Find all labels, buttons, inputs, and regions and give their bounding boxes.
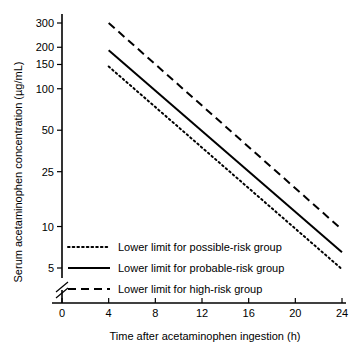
legend-label: Lower limit for possible-risk group	[118, 241, 282, 253]
series-line-dashed	[109, 23, 342, 230]
y-tick-label: 300	[36, 17, 54, 29]
y-tick-label: 50	[42, 124, 54, 136]
x-tick-label: 20	[289, 307, 301, 319]
legend-label: Lower limit for high-risk group	[118, 283, 262, 295]
legend-label: Lower limit for probable-risk group	[118, 262, 284, 274]
y-tick-label: 150	[36, 58, 54, 70]
y-axis-ticks: 5102550100150200300	[36, 17, 62, 274]
y-tick-label: 200	[36, 41, 54, 53]
y-axis-title: Serum acetaminophen concentration (µg/mL…	[12, 62, 24, 283]
x-axis-title: Time after acetaminophen ingestion (h)	[110, 330, 301, 342]
x-axis: 04812162024 Time after acetaminophen ing…	[52, 298, 348, 342]
series-line-solid	[109, 50, 342, 252]
x-tick-label: 24	[336, 307, 348, 319]
y-tick-label: 25	[42, 166, 54, 178]
x-tick-label: 0	[59, 307, 65, 319]
y-tick-label: 5	[48, 262, 54, 274]
nomogram-chart: 5102550100150200300 Serum acetaminophen …	[0, 0, 360, 348]
y-axis: 5102550100150200300 Serum acetaminophen …	[12, 14, 68, 303]
x-tick-label: 12	[196, 307, 208, 319]
x-tick-label: 4	[106, 307, 112, 319]
series-line-dotted	[109, 67, 342, 270]
x-tick-label: 16	[243, 307, 255, 319]
y-tick-label: 100	[36, 83, 54, 95]
x-axis-ticks: 04812162024	[59, 298, 348, 319]
data-series-group	[109, 23, 342, 269]
chart-canvas: 5102550100150200300 Serum acetaminophen …	[0, 0, 360, 348]
y-tick-label: 10	[42, 221, 54, 233]
x-tick-label: 8	[152, 307, 158, 319]
chart-legend: Lower limit for possible-risk groupLower…	[68, 241, 284, 295]
